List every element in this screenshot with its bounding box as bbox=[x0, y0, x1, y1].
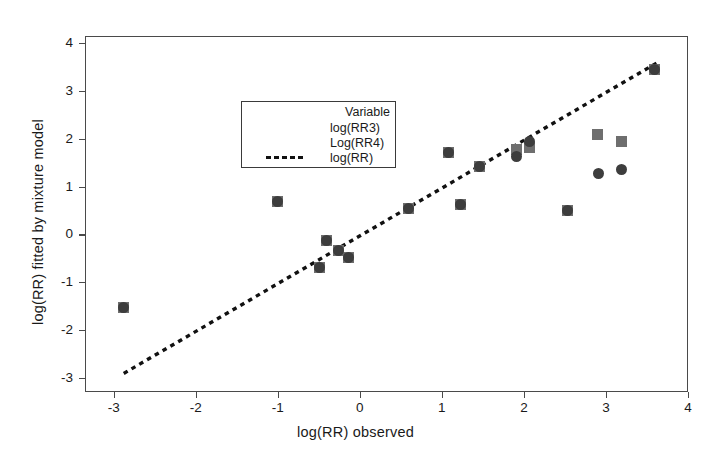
data-point-square bbox=[616, 136, 627, 147]
x-axis-tick-label: 3 bbox=[586, 400, 626, 415]
data-point-circle bbox=[562, 205, 573, 216]
x-axis-tick-label: -3 bbox=[94, 400, 134, 415]
x-axis-tick-label: 0 bbox=[340, 400, 380, 415]
filled-square-marker-icon bbox=[274, 138, 284, 148]
legend-label: Log(RR4) bbox=[330, 136, 384, 150]
data-point-circle bbox=[343, 252, 354, 263]
y-axis-tick-label: 2 bbox=[43, 131, 73, 146]
legend-entry-log-rr: log(RR) bbox=[242, 151, 397, 166]
data-point-circle bbox=[616, 164, 627, 175]
y-axis-tick-label: 4 bbox=[43, 35, 73, 50]
x-axis-tick-label: 1 bbox=[422, 400, 462, 415]
legend-label: log(RR3) bbox=[330, 121, 380, 135]
x-axis-tick bbox=[524, 392, 525, 398]
x-axis-tick bbox=[360, 392, 361, 398]
x-axis-tick-label: -1 bbox=[258, 400, 298, 415]
data-point-circle bbox=[333, 245, 344, 256]
x-axis-tick bbox=[442, 392, 443, 398]
data-point-circle bbox=[524, 136, 535, 147]
x-axis-tick bbox=[196, 392, 197, 398]
reference-line bbox=[86, 37, 687, 391]
x-axis-tick-label: 4 bbox=[668, 400, 708, 415]
scatter-plot-figure: log(RR) fitted by mixture model log(RR) … bbox=[0, 0, 711, 458]
legend-entry-log-rr3: log(RR3) bbox=[242, 121, 397, 136]
dotted-line-marker-icon bbox=[266, 156, 310, 159]
data-point-circle bbox=[403, 203, 414, 214]
data-point-circle bbox=[443, 147, 454, 158]
data-point-circle bbox=[321, 235, 332, 246]
y-axis-tick-label: -2 bbox=[43, 322, 73, 337]
data-point-circle bbox=[593, 168, 604, 179]
x-axis-tick bbox=[688, 392, 689, 398]
y-axis-tick-label: 3 bbox=[43, 83, 73, 98]
y-axis-tick-label: -3 bbox=[43, 370, 73, 385]
x-axis-tick bbox=[606, 392, 607, 398]
x-axis-tick-label: -2 bbox=[176, 400, 216, 415]
legend-box: Variable log(RR3) Log(RR4) log(RR) bbox=[241, 101, 396, 168]
x-axis-tick bbox=[114, 392, 115, 398]
y-axis-tick-label: 0 bbox=[43, 226, 73, 241]
x-axis-tick bbox=[278, 392, 279, 398]
y-axis-tick-label: -1 bbox=[43, 274, 73, 289]
data-point-circle bbox=[649, 64, 660, 75]
legend-entry-log-rr4: Log(RR4) bbox=[242, 136, 397, 151]
filled-circle-marker-icon bbox=[274, 123, 284, 133]
legend-title: Variable bbox=[242, 105, 390, 119]
x-axis-tick-label: 2 bbox=[504, 400, 544, 415]
y-axis-tick-label: 1 bbox=[43, 179, 73, 194]
plot-area: Variable log(RR3) Log(RR4) log(RR) bbox=[85, 36, 688, 392]
x-axis-label: log(RR) observed bbox=[0, 424, 711, 440]
legend-label: log(RR) bbox=[330, 151, 373, 165]
data-point-square bbox=[592, 129, 603, 140]
